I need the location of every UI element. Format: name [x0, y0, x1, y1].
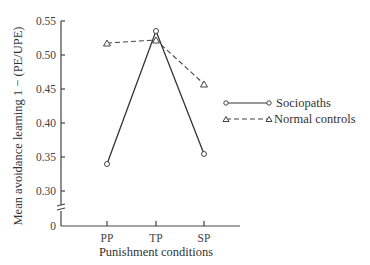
triangle-marker: [201, 81, 208, 87]
svg-text:0.50: 0.50: [36, 49, 56, 61]
y-axis: [57, 21, 65, 226]
svg-text:0.45: 0.45: [36, 83, 56, 95]
svg-text:0.55: 0.55: [36, 15, 56, 27]
chart: Mean avoidance learning 1 − (PE/UPE) 0.5…: [0, 0, 370, 265]
svg-text:PP: PP: [101, 232, 114, 244]
svg-text:TP: TP: [149, 232, 162, 244]
svg-text:0.35: 0.35: [36, 151, 56, 163]
legend-item-sociopaths: Sociopaths: [224, 96, 331, 110]
x-axis-title: Punishment conditions: [99, 245, 213, 259]
svg-text:SP: SP: [198, 232, 211, 244]
svg-text:Sociopaths: Sociopaths: [276, 96, 331, 110]
circle-marker: [202, 152, 207, 157]
x-axis: [61, 221, 240, 226]
series-normal-controls: [104, 37, 208, 87]
series-sociopaths: [105, 29, 207, 167]
svg-text:0: 0: [50, 220, 56, 232]
legend: Sociopaths Normal controls: [223, 96, 356, 126]
svg-text:0.40: 0.40: [36, 117, 56, 129]
y-axis-title: Mean avoidance learning 1 − (PE/UPE): [11, 26, 25, 225]
circle-marker: [154, 29, 159, 34]
svg-text:0.30: 0.30: [36, 185, 56, 197]
legend-item-normal-controls: Normal controls: [223, 112, 356, 126]
circle-marker: [105, 162, 110, 167]
svg-text:Normal controls: Normal controls: [274, 112, 356, 126]
x-tick-labels: PP TP SP: [101, 232, 211, 244]
y-tick-labels: 0.55 0.50 0.45 0.40 0.35 0.30 0: [36, 15, 56, 232]
